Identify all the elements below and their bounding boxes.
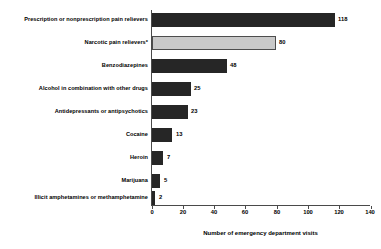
x-axis-tick-label: 40 <box>211 210 217 216</box>
bar-alcohol-in-combination-with-other-drugs <box>152 82 191 96</box>
bar-illicit-amphetamines-or-methamphetamine <box>152 191 155 205</box>
category-label: Benzodiazepines <box>0 63 148 69</box>
value-label: 23 <box>191 109 197 115</box>
category-label: Marijuana <box>0 178 148 184</box>
x-axis-tick-label: 60 <box>242 210 248 216</box>
y-axis-line <box>151 10 152 206</box>
value-label: 48 <box>230 63 236 69</box>
category-label: Prescription or nonprescription pain rel… <box>0 17 148 23</box>
bar-prescription-or-nonprescription-pain-relievers <box>152 13 335 27</box>
category-label: Illicit amphetamines or methamphetamine <box>0 195 148 201</box>
bar-antidepressants-or-antipsychotics <box>152 105 188 119</box>
x-axis-title: Number of emergency department visits <box>151 230 370 236</box>
bar-benzodiazepines <box>152 59 227 73</box>
value-label: 2 <box>159 195 162 201</box>
value-label: 80 <box>279 40 285 46</box>
category-label: Alcohol in combination with other drugs <box>0 86 148 92</box>
bar-narcotic-pain-relievers <box>152 36 276 50</box>
x-axis-tick-label: 100 <box>303 210 313 216</box>
value-label: 7 <box>167 155 170 161</box>
category-label: Antidepressants or antipsychotics <box>0 109 148 115</box>
category-label: Cocaine <box>0 132 148 138</box>
x-axis-tick-label: 0 <box>150 210 153 216</box>
category-label: Heroin <box>0 155 148 161</box>
bar-heroin <box>152 151 163 165</box>
bar-cocaine <box>152 128 172 142</box>
bar-chart: Prescription or nonprescription pain rel… <box>0 0 381 249</box>
bar-marijuana <box>152 174 160 188</box>
x-axis-tick-label: 20 <box>180 210 186 216</box>
value-label: 5 <box>164 178 167 184</box>
value-label: 25 <box>194 86 200 92</box>
category-label: Narcotic pain relievers* <box>0 40 148 46</box>
value-label: 13 <box>176 132 182 138</box>
x-axis-tick-label: 140 <box>365 210 375 216</box>
x-axis-tick-label: 120 <box>334 210 344 216</box>
x-axis-tick-label: 80 <box>274 210 280 216</box>
value-label: 118 <box>338 17 347 23</box>
